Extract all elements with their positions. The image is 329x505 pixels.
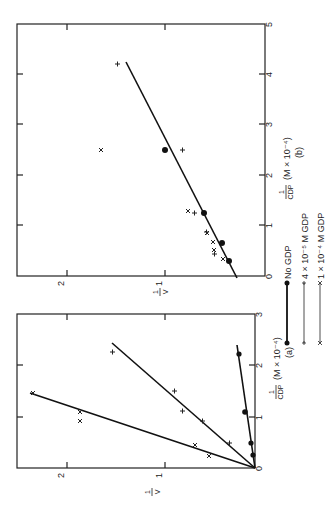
tick-label: 0	[254, 466, 264, 471]
legend-item-no-gdp: No GDP	[283, 245, 293, 345]
x-axis-label-a: 1 CDP (M × 10⁻⁴) (a)	[268, 337, 294, 399]
fit-line-no-gdp	[237, 345, 255, 468]
figure: 0 1 2 3 4 5 2 1 1 CDP (M × 10⁻⁴) (b) 1 V…	[0, 0, 329, 505]
legend-item-4e-5: 4 × 10⁻⁵ M GDP	[300, 213, 310, 345]
fraction-den: CDP	[277, 384, 284, 399]
point-dot	[201, 210, 207, 216]
fit-line-1e-4	[30, 393, 255, 468]
fit-line-b	[126, 62, 237, 278]
plot-frame-b	[17, 24, 265, 276]
fraction-den: V	[154, 489, 161, 494]
panel-b: 0 1 2 3 4 5 2 1 1 CDP (M × 10⁻⁴) (b)	[17, 22, 304, 286]
unit-label: (M × 10⁻⁴)	[282, 137, 292, 180]
fit-line-4e-5	[112, 343, 255, 468]
plus-markers-b	[115, 62, 217, 257]
x-axis-label-b: 1 CDP (M × 10⁻⁴) (b)	[278, 137, 304, 199]
point-dot	[162, 147, 168, 153]
tick-label: 3	[254, 312, 264, 317]
fraction-num: 1	[144, 490, 151, 494]
fraction-num: 1	[152, 290, 159, 294]
legend-label: 4 × 10⁻⁵ M GDP	[300, 213, 310, 279]
point-dot	[219, 240, 225, 246]
panel-label: (b)	[294, 147, 304, 158]
tick-label: 3	[264, 122, 274, 127]
cross-markers-a	[31, 391, 211, 458]
legend-label: 1 × 10⁻⁴ M GDP	[316, 213, 326, 279]
point-dot	[226, 258, 232, 264]
panel-a: 0 1 2 3 2 1 1 CDP (M × 10⁻⁴) (a) 1 V	[17, 312, 294, 496]
y-axis-label-b: 1 V	[152, 288, 169, 296]
tick-label: 2	[56, 473, 66, 478]
plot-frame-a	[17, 314, 255, 468]
fraction-num: 1	[268, 390, 275, 394]
tick-label: 1	[154, 281, 164, 286]
tick-label: 5	[264, 22, 274, 27]
tick-label: 2	[56, 281, 66, 286]
point-dot	[236, 351, 241, 356]
fraction-num: 1	[278, 190, 285, 194]
unit-label: (M × 10⁻⁴)	[272, 337, 282, 380]
point-dot	[250, 452, 255, 457]
fraction-den: CDP	[287, 184, 294, 199]
legend-label: No GDP	[283, 245, 293, 279]
tick-label: 4	[264, 72, 274, 77]
cross-markers-b	[99, 148, 225, 261]
tick-label: 2	[264, 173, 274, 178]
legend: No GDP 4 × 10⁻⁵ M GDP 1 × 10⁻⁴ M GDP	[283, 213, 326, 346]
tick-label: 2	[254, 363, 264, 368]
fraction-den: V	[162, 289, 169, 294]
tick-label: 1	[264, 223, 274, 228]
panel-label: (a)	[284, 347, 294, 358]
point-dot	[248, 440, 253, 445]
tick-label: 0	[264, 274, 274, 279]
legend-item-1e-4: 1 × 10⁻⁴ M GDP	[316, 213, 326, 345]
tick-label: 1	[154, 473, 164, 478]
point-dot	[242, 409, 248, 415]
tick-label: 1	[254, 415, 264, 420]
y-axis-label-a: 1 V	[144, 488, 161, 496]
